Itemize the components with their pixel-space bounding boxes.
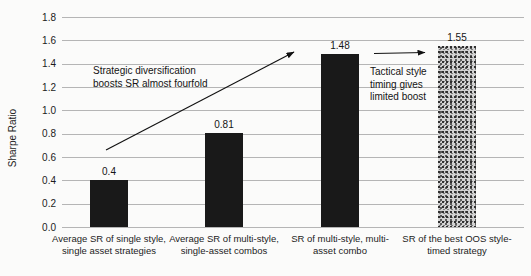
y-axis-title: Sharpe Ratio — [7, 63, 21, 213]
category-label-line: single-asset combos — [159, 245, 289, 257]
category-label-line: asset combo — [275, 245, 405, 257]
bar-single-style-single-asset — [90, 180, 128, 227]
bar-value-label: 0.81 — [194, 119, 254, 131]
y-tick-label: 1.0 — [22, 105, 56, 116]
bar-value-label: 1.48 — [310, 40, 370, 52]
y-tick-label: 0.4 — [22, 175, 56, 186]
horizontal-arrow — [374, 53, 425, 54]
y-tick-label: 0.2 — [22, 198, 56, 209]
y-tick-label: 0.0 — [22, 222, 56, 233]
y-tick-label: 1.2 — [22, 82, 56, 93]
bar-value-label: 1.55 — [427, 32, 487, 44]
y-tick-label: 0.8 — [22, 128, 56, 139]
category-label: Average SR of multi-style, single-asset … — [159, 233, 289, 257]
bar-value-label: 0.4 — [79, 166, 139, 178]
annotation-strategic-diversification: Strategic diversification boosts SR almo… — [93, 65, 208, 90]
category-label-line: SR of multi-style, multi- — [275, 233, 405, 245]
y-tick-label: 1.8 — [22, 12, 56, 23]
category-label-line: SR of the best OOS style- — [392, 233, 522, 245]
bar-multi-style-single-asset — [205, 133, 243, 228]
gridline — [62, 227, 524, 228]
category-label-line: timed strategy — [392, 245, 522, 257]
annotation-tactical-timing: Tactical style timing gives limited boos… — [370, 66, 427, 104]
category-label-line: Average SR of single style, — [44, 233, 174, 245]
bar-best-oos-style-timed — [438, 46, 476, 227]
gridline — [62, 17, 524, 18]
category-label: SR of the best OOS style- timed strategy — [392, 233, 522, 257]
category-label: Average SR of single style, single asset… — [44, 233, 174, 257]
category-label: SR of multi-style, multi- asset combo — [275, 233, 405, 257]
y-tick-label: 1.4 — [22, 58, 56, 69]
sharpe-ratio-bar-chart: 1.81.61.41.21.00.80.60.40.20.0 Sharpe Ra… — [0, 0, 531, 276]
y-tick-label: 0.6 — [22, 152, 56, 163]
bar-multi-style-multi-asset — [321, 54, 359, 227]
category-label-line: Average SR of multi-style, — [159, 233, 289, 245]
y-tick-label: 1.6 — [22, 35, 56, 46]
category-label-line: single asset strategies — [44, 245, 174, 257]
